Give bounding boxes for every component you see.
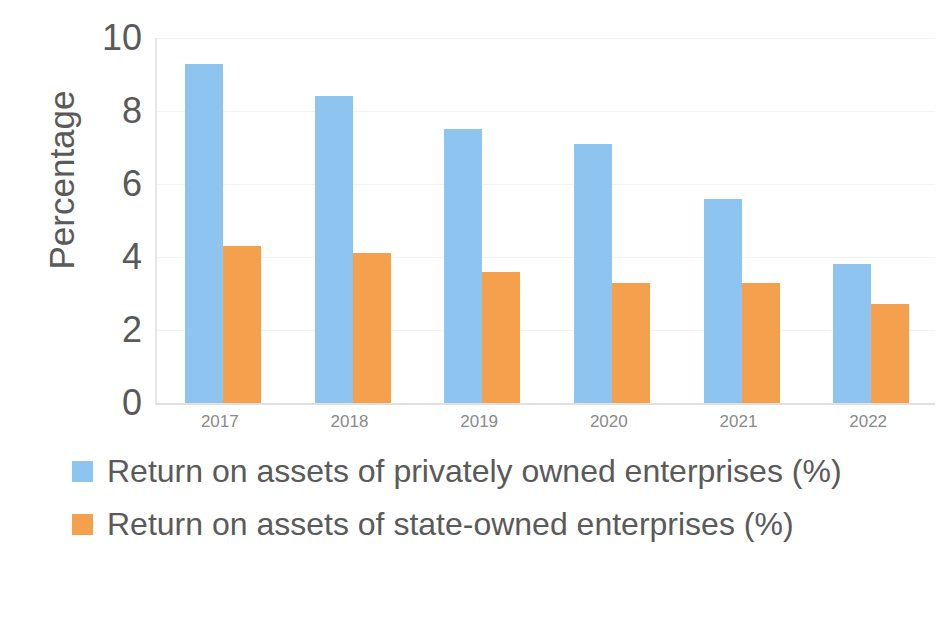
- bar-group: [676, 38, 806, 403]
- legend-swatch-icon: [72, 514, 93, 535]
- bar-group: [805, 38, 935, 403]
- bar-private-2022[interactable]: [833, 264, 871, 403]
- bar-state-2018[interactable]: [353, 253, 391, 403]
- bar-private-2021[interactable]: [704, 199, 742, 403]
- x-axis-tick-label: 2022: [803, 412, 933, 432]
- bar-private-2020[interactable]: [574, 144, 612, 403]
- legend-swatch-icon: [72, 461, 93, 482]
- x-axis-tick-label: 2019: [414, 412, 544, 432]
- y-axis-tick-label: 4: [80, 239, 142, 275]
- bar-state-2017[interactable]: [223, 246, 261, 403]
- bar-state-2022[interactable]: [871, 304, 909, 403]
- bar-state-2019[interactable]: [482, 272, 520, 403]
- y-axis-tick-label: 6: [80, 166, 142, 202]
- y-axis-tick-label: 0: [80, 385, 142, 421]
- legend-label: Return on assets of state-owned enterpri…: [107, 505, 794, 544]
- legend-label: Return on assets of privately owned ente…: [107, 452, 842, 491]
- bar-chart: Percentage 1086420 201720182019202020212…: [0, 0, 952, 628]
- legend-item[interactable]: Return on assets of state-owned enterpri…: [72, 505, 952, 544]
- y-axis-tick-label: 10: [80, 20, 142, 56]
- bar-private-2017[interactable]: [185, 64, 223, 403]
- bar-group: [157, 38, 287, 403]
- y-axis-tick-label: 8: [80, 93, 142, 129]
- x-axis-tick-label: 2018: [285, 412, 415, 432]
- legend-item[interactable]: Return on assets of privately owned ente…: [72, 452, 952, 491]
- y-axis-tick-labels: 1086420: [80, 0, 142, 420]
- bar-private-2018[interactable]: [315, 96, 353, 403]
- chart-legend: Return on assets of privately owned ente…: [72, 452, 952, 558]
- x-axis-tick-label: 2021: [674, 412, 804, 432]
- bar-state-2020[interactable]: [612, 283, 650, 403]
- y-axis-tick-label: 2: [80, 312, 142, 348]
- y-axis-title: Percentage: [42, 10, 82, 350]
- bar-state-2021[interactable]: [742, 283, 780, 403]
- plot-area: [155, 38, 935, 405]
- bar-group: [416, 38, 546, 403]
- bar-private-2019[interactable]: [444, 129, 482, 403]
- x-axis-tick-label: 2017: [155, 412, 285, 432]
- bar-group: [546, 38, 676, 403]
- x-axis-tick-label: 2020: [544, 412, 674, 432]
- bar-group: [287, 38, 417, 403]
